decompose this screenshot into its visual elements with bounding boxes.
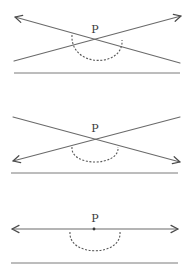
panel-2: P <box>11 117 180 173</box>
angle-arc <box>72 147 118 162</box>
diagram-canvas: PPP <box>0 0 192 277</box>
panel-1: P <box>14 14 181 73</box>
point-label: P <box>91 212 99 225</box>
panel-3: P <box>11 212 178 263</box>
angle-arc <box>70 232 120 251</box>
point-dot <box>93 228 96 231</box>
point-label: P <box>91 122 99 135</box>
point-label: P <box>91 23 99 36</box>
